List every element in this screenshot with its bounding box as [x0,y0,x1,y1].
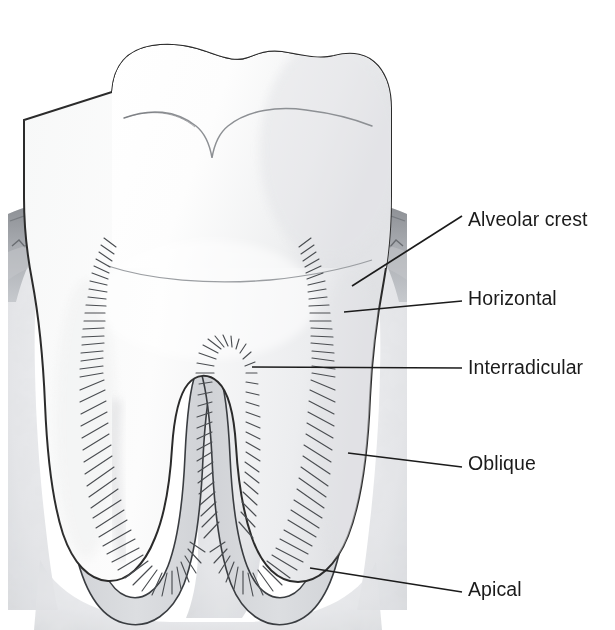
label-alveolar-crest: Alveolar crest [468,208,588,230]
leader-interradicular [252,367,462,368]
label-oblique: Oblique [468,452,536,474]
label-apical: Apical [468,578,522,600]
label-horizontal: Horizontal [468,287,557,309]
illustration-canvas: Alveolar crest Horizontal Interradicular… [0,0,615,630]
periodontal-ligament-diagram: Alveolar crest Horizontal Interradicular… [0,0,615,630]
label-interradicular: Interradicular [468,356,584,378]
